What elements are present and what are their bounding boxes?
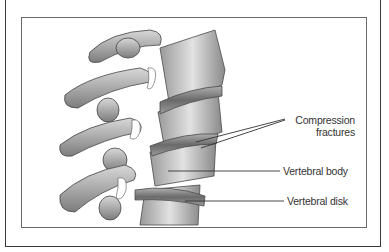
label-line: Compression [290, 114, 355, 126]
label-vertebral-body: Vertebral body [283, 165, 348, 177]
vertebral-column [135, 30, 225, 225]
label-line: fractures [290, 126, 355, 138]
label-compression-fractures: Compression fractures [290, 114, 355, 138]
label-vertebral-disk: Vertebral disk [287, 195, 348, 207]
